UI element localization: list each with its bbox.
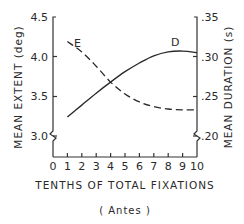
figure-caption: ( Antes ) [99, 205, 151, 216]
left-tick-label: 4.0 [31, 51, 49, 64]
x-tick-label: 3 [93, 160, 100, 173]
x-tick-label: 9 [179, 160, 186, 173]
dual-axis-line-chart: 3.0 3.5 4.0 4.5 .20 .25 .30 .35 01234567… [0, 0, 244, 224]
right-axis-title: MEAN DURATION (s) [222, 26, 234, 149]
x-tick-label: 4 [107, 160, 114, 173]
series-e-label: E [74, 37, 81, 50]
x-axis-title: TENTHS OF TOTAL FIXATIONS [34, 179, 215, 191]
series-d-solid-line [67, 51, 197, 117]
x-tick-label: 5 [122, 160, 129, 173]
left-tick-label: 4.5 [31, 11, 49, 24]
x-axis: 012345678910 [50, 153, 205, 173]
x-tick-label: 10 [190, 160, 204, 173]
left-tick-label: 3.0 [31, 130, 49, 143]
x-tick-label: 2 [78, 160, 85, 173]
right-tick-label: .35 [201, 11, 219, 24]
left-axis-title: MEAN EXTENT (deg) [12, 25, 24, 148]
right-y-axis: .20 .25 .30 .35 [193, 11, 219, 157]
left-tick-label: 3.5 [31, 90, 49, 103]
x-tick-label: 8 [165, 160, 172, 173]
x-tick-label: 1 [64, 160, 71, 173]
right-tick-label: .20 [201, 130, 219, 143]
right-tick-label: .25 [201, 90, 219, 103]
series-d-label: D [171, 36, 179, 49]
series-e-dashed-line [67, 42, 197, 110]
left-y-axis: 3.0 3.5 4.0 4.5 [31, 11, 58, 157]
x-tick-label: 0 [50, 160, 57, 173]
right-tick-label: .30 [201, 51, 219, 64]
x-tick-label: 6 [136, 160, 143, 173]
x-tick-label: 7 [150, 160, 157, 173]
